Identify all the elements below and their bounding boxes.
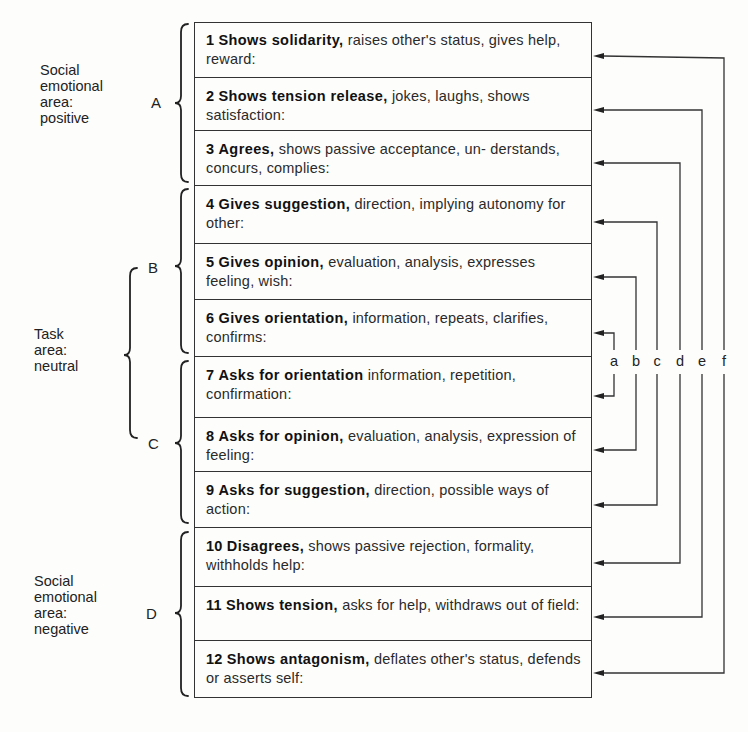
connector-label-a: a — [606, 353, 622, 369]
connector-d — [603, 163, 680, 350]
connector-a — [603, 333, 614, 350]
brace-d — [175, 532, 188, 696]
arrow-left-icon — [593, 502, 604, 508]
brace-c — [175, 361, 188, 523]
connector-label-e: e — [694, 353, 710, 369]
arrow-left-icon — [593, 219, 604, 225]
arrow-left-icon — [593, 614, 604, 620]
connector-label-b: b — [628, 353, 644, 369]
connector-label-c: c — [649, 353, 665, 369]
arrow-left-icon — [593, 107, 604, 113]
arrow-left-icon — [593, 393, 604, 399]
arrow-left-icon — [593, 560, 604, 566]
connector-e — [603, 110, 702, 350]
brace-task-area — [124, 268, 137, 438]
arrow-left-icon — [593, 447, 604, 453]
arrow-left-icon — [593, 53, 604, 59]
connector-f — [603, 56, 724, 350]
arrow-left-icon — [593, 160, 604, 166]
connector-label-f: f — [716, 353, 732, 369]
arrow-left-icon — [593, 274, 604, 280]
connector-c — [603, 222, 657, 350]
connector-b — [603, 277, 636, 350]
arrow-left-icon — [593, 670, 604, 676]
arrow-left-icon — [593, 330, 604, 336]
connector-label-d: d — [672, 353, 688, 369]
brace-b — [175, 189, 188, 353]
arrowhead-icons — [593, 53, 604, 676]
brace-a — [175, 24, 188, 182]
